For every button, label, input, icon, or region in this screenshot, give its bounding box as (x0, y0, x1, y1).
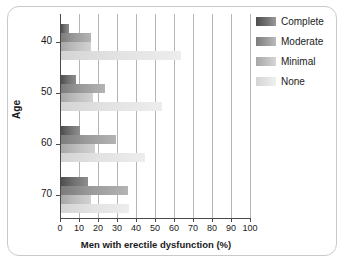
x-axis-tick (174, 218, 175, 222)
legend-item-label: None (281, 76, 305, 87)
legend-item-label: Complete (281, 16, 324, 27)
legend-swatch-icon (256, 57, 276, 66)
legend-item-minimal[interactable]: Minimal (256, 52, 336, 70)
plot-area (60, 14, 250, 218)
gridline (250, 14, 251, 218)
bar-group (61, 116, 250, 167)
y-axis-tick-label: 60 (24, 137, 52, 148)
bar-none-age-60 (61, 153, 145, 162)
bar-moderate-age-70 (61, 186, 128, 195)
bar-none-age-70 (61, 204, 129, 213)
legend-item-moderate[interactable]: Moderate (256, 32, 336, 50)
y-axis-tick (56, 42, 60, 43)
x-axis-tick (155, 218, 156, 222)
bar-complete-age-50 (61, 75, 76, 84)
y-axis-tick (56, 93, 60, 94)
y-axis-tick-label: 40 (24, 35, 52, 46)
x-axis-tick-label: 100 (238, 223, 262, 233)
x-axis-tick (60, 218, 61, 222)
bar-none-age-50 (61, 102, 162, 111)
x-axis-tick (231, 218, 232, 222)
y-axis-tick (56, 144, 60, 145)
x-axis-tick (98, 218, 99, 222)
legend-swatch-icon (256, 37, 276, 46)
chart-figure: 0102030405060708090100 40506070 Men with… (0, 0, 345, 265)
y-axis-tick-label: 70 (24, 188, 52, 199)
bar-complete-age-70 (61, 177, 88, 186)
y-axis-title: Age (11, 90, 22, 130)
x-axis-tick (212, 218, 213, 222)
legend-swatch-icon (256, 17, 276, 26)
bar-minimal-age-40 (61, 42, 91, 51)
legend-item-label: Minimal (281, 56, 315, 67)
bar-group (61, 14, 250, 65)
bar-complete-age-60 (61, 126, 80, 135)
legend-item-complete[interactable]: Complete (256, 12, 336, 30)
x-axis-tick (136, 218, 137, 222)
bar-moderate-age-40 (61, 33, 91, 42)
x-axis-title: Men with erectile dysfunction (%) (60, 239, 252, 250)
bar-moderate-age-50 (61, 84, 105, 93)
bar-complete-age-40 (61, 24, 69, 33)
bar-minimal-age-70 (61, 195, 91, 204)
legend-item-none[interactable]: None (256, 72, 336, 90)
x-axis-tick (117, 218, 118, 222)
y-axis-tick (56, 195, 60, 196)
bar-minimal-age-60 (61, 144, 95, 153)
x-axis-tick (250, 218, 251, 222)
x-axis-tick (79, 218, 80, 222)
bar-group (61, 65, 250, 116)
bar-group (61, 167, 250, 218)
y-axis-tick-label: 50 (24, 86, 52, 97)
legend-item-label: Moderate (281, 36, 323, 47)
legend-swatch-icon (256, 77, 276, 86)
x-axis-tick (193, 218, 194, 222)
bar-moderate-age-60 (61, 135, 116, 144)
bar-minimal-age-50 (61, 93, 93, 102)
chart-legend: CompleteModerateMinimalNone (256, 12, 336, 92)
bar-none-age-40 (61, 51, 181, 60)
